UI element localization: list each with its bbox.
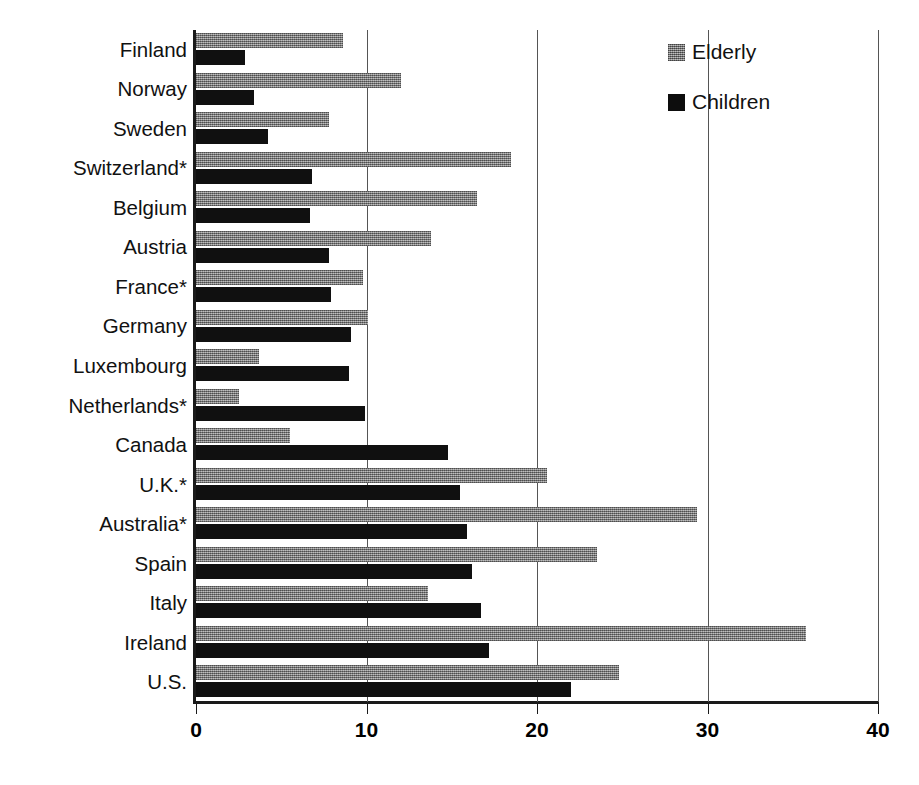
x-axis-tick (537, 702, 538, 714)
category-label: Belgium (113, 198, 187, 219)
x-axis-tick-label: 20 (525, 718, 548, 742)
category-label: Sweden (113, 119, 187, 140)
bar-elderly (196, 33, 343, 48)
bar-children (196, 169, 312, 184)
bar-group (196, 270, 878, 307)
bar-group (196, 152, 878, 189)
x-axis-tick-label: 0 (190, 718, 202, 742)
bar-children (196, 248, 329, 263)
gridline (878, 30, 879, 702)
bar-children (196, 603, 481, 618)
x-axis-tick (878, 702, 879, 714)
bar-group (196, 33, 878, 70)
x-axis-tick-label: 10 (355, 718, 378, 742)
bar-elderly (196, 270, 363, 285)
category-label: Luxembourg (73, 356, 187, 377)
bar-elderly (196, 349, 259, 364)
bar-children (196, 90, 254, 105)
bar-elderly (196, 152, 511, 167)
legend-label-elderly: Elderly (692, 40, 756, 64)
x-axis-tick-label: 40 (866, 718, 889, 742)
bar-group (196, 626, 878, 663)
category-label: France* (115, 277, 187, 298)
bar-group (196, 468, 878, 505)
category-label: Spain (135, 554, 187, 575)
bar-children (196, 327, 351, 342)
bar-children (196, 129, 268, 144)
bar-elderly (196, 547, 597, 562)
bar-children (196, 485, 460, 500)
bar-elderly (196, 586, 428, 601)
bar-group (196, 310, 878, 347)
bar-elderly (196, 468, 547, 483)
bar-group (196, 73, 878, 110)
x-axis-tick (196, 702, 197, 714)
category-label: Australia* (99, 514, 187, 535)
elderly-swatch-icon (668, 44, 685, 61)
category-label: U.S. (147, 672, 187, 693)
legend-item-elderly: Elderly (668, 40, 770, 64)
bar-group (196, 112, 878, 149)
bar-children (196, 366, 349, 381)
bar-group (196, 191, 878, 228)
legend-label-children: Children (692, 90, 770, 114)
chart-title-fragment (150, 0, 580, 6)
bar-children (196, 406, 365, 421)
category-label: Canada (115, 435, 187, 456)
plot-area (196, 30, 878, 702)
bar-group (196, 349, 878, 386)
category-label: Norway (118, 79, 188, 100)
poverty-rate-bar-chart: FinlandNorwaySwedenSwitzerland*BelgiumAu… (0, 0, 919, 785)
category-label: Switzerland* (73, 158, 187, 179)
bar-group (196, 586, 878, 623)
category-label: Italy (149, 593, 187, 614)
bar-group (196, 665, 878, 702)
bar-children (196, 524, 467, 539)
bar-elderly (196, 310, 368, 325)
bar-elderly (196, 73, 401, 88)
x-axis-tick (708, 702, 709, 714)
category-label: Germany (103, 316, 187, 337)
children-swatch-icon (668, 94, 685, 111)
bar-elderly (196, 507, 697, 522)
bar-children (196, 445, 448, 460)
category-label: Netherlands* (68, 396, 187, 417)
legend-item-children: Children (668, 90, 770, 114)
category-label: Ireland (124, 633, 187, 654)
bar-elderly (196, 389, 239, 404)
x-axis-tick-label: 30 (696, 718, 719, 742)
bar-elderly (196, 191, 477, 206)
category-label: Austria (123, 237, 187, 258)
bar-group (196, 507, 878, 544)
bar-children (196, 208, 310, 223)
bar-group (196, 428, 878, 465)
legend: Elderly Children (668, 40, 770, 140)
bar-elderly (196, 112, 329, 127)
bar-children (196, 643, 489, 658)
bar-elderly (196, 665, 619, 680)
bar-elderly (196, 428, 290, 443)
bar-elderly (196, 231, 431, 246)
bar-children (196, 682, 571, 697)
bar-elderly (196, 626, 806, 641)
bar-children (196, 50, 245, 65)
bar-group (196, 389, 878, 426)
bar-group (196, 231, 878, 268)
x-axis-tick (367, 702, 368, 714)
category-axis-labels: FinlandNorwaySwedenSwitzerland*BelgiumAu… (0, 30, 196, 702)
category-label: U.K.* (139, 475, 187, 496)
bar-children (196, 564, 472, 579)
bar-children (196, 287, 331, 302)
bar-group (196, 547, 878, 584)
category-label: Finland (120, 40, 187, 61)
